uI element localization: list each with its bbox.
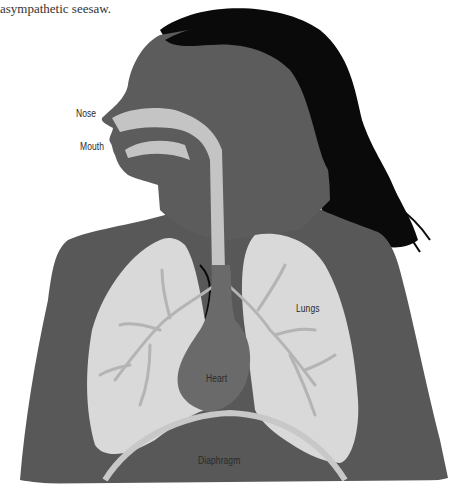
label-diaphragm: Diaphragm	[198, 455, 240, 466]
respiratory-illustration	[0, 0, 458, 491]
label-heart: Heart	[206, 373, 227, 384]
label-nose: Nose	[76, 108, 96, 119]
label-lungs: Lungs	[296, 303, 320, 314]
label-mouth: Mouth	[80, 141, 104, 152]
